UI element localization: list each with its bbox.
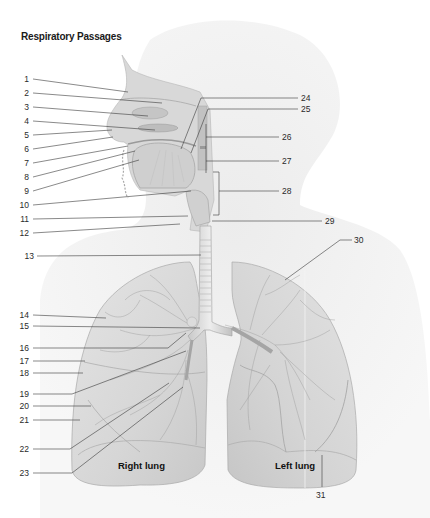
- label-2: 2: [13, 88, 29, 98]
- label-1: 1: [13, 74, 29, 84]
- label-14: 14: [13, 310, 29, 320]
- label-9: 9: [13, 186, 29, 196]
- label-10: 10: [13, 200, 29, 210]
- label-29: 29: [325, 216, 334, 226]
- label-22: 22: [13, 444, 29, 454]
- respiratory-diagram: Respiratory Passages 1 2 3 4 5 6 7 8 9 1…: [0, 0, 430, 518]
- label-28: 28: [282, 186, 291, 196]
- right-lung-label: Right lung: [118, 460, 165, 471]
- label-19: 19: [13, 389, 29, 399]
- label-24: 24: [301, 93, 310, 103]
- label-26: 26: [282, 132, 291, 142]
- label-7: 7: [13, 158, 29, 168]
- label-5: 5: [13, 130, 29, 140]
- label-21: 21: [13, 415, 29, 425]
- anatomy-illustration: [0, 0, 430, 518]
- label-31: 31: [316, 490, 325, 500]
- label-23: 23: [13, 468, 29, 478]
- label-13: 13: [18, 251, 34, 261]
- label-15: 15: [13, 321, 29, 331]
- left-lung-label: Left lung: [275, 460, 315, 471]
- label-30: 30: [354, 235, 363, 245]
- label-17: 17: [13, 356, 29, 366]
- label-20: 20: [13, 401, 29, 411]
- diagram-title: Respiratory Passages: [21, 31, 122, 42]
- label-11: 11: [13, 214, 29, 224]
- label-4: 4: [13, 116, 29, 126]
- label-18: 18: [13, 368, 29, 378]
- label-8: 8: [13, 172, 29, 182]
- label-12: 12: [13, 228, 29, 238]
- label-3: 3: [13, 102, 29, 112]
- label-27: 27: [282, 156, 291, 166]
- label-25: 25: [301, 104, 310, 114]
- label-6: 6: [13, 144, 29, 154]
- label-16: 16: [13, 343, 29, 353]
